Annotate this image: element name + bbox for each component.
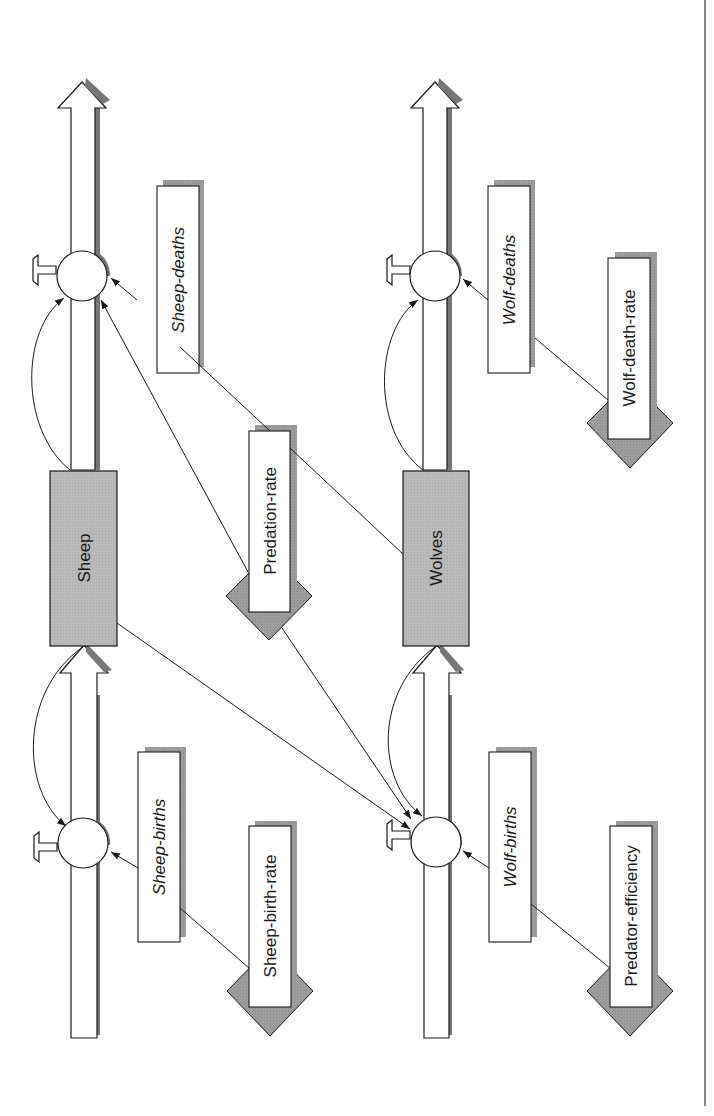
valve-wolf-deaths[interactable] [387,251,462,301]
valve-sheep-deaths[interactable] [33,251,110,301]
stock-flow-diagram: Sheep Sheep-births Sheep-deaths Sheep-bi… [0,0,714,1116]
flow-sheep-deaths[interactable]: Sheep-deaths [157,180,204,373]
flow-sheep-births[interactable]: Sheep-births [138,747,186,942]
link-wolves-to-deaths-valve [385,300,424,470]
stock-sheep[interactable]: Sheep [50,471,117,646]
param-predation-rate[interactable]: Predation-rate [226,425,312,640]
link-sheepbirthrate-sheepbirths [180,908,249,968]
link-predationrate-sheepdeaths [180,347,270,431]
flow-wolf-births[interactable]: Wolf-births [489,747,537,942]
link-sheepbirths-valve [111,852,138,868]
stock-wolves-label: Wolves [427,530,446,585]
valve-sheep-births[interactable] [34,818,110,868]
param-predation-rate-label: Predation-rate [261,467,280,575]
param-wolf-death-rate-label: Wolf-death-rate [620,290,639,407]
flow-wolf-deaths-label: Wolf-deaths [500,234,519,325]
link-sheepdeaths-valve [111,278,137,300]
flow-sheep-deaths-label: Sheep-deaths [169,227,188,333]
link-wolfdeaths-valve [463,279,488,300]
valve-wolf-births[interactable] [387,817,462,867]
link-sheep-to-deaths-valve [32,298,70,470]
link-wolfdeathrate-wolfdeaths [535,338,608,400]
param-wolf-death-rate[interactable]: Wolf-death-rate [587,252,673,468]
param-predator-efficiency-label: Predator-efficiency [622,845,641,987]
link-wolfbirths-valve [463,851,489,868]
stock-sheep-label: Sheep [75,533,94,582]
link-predationrate-wolfbirths-valve [282,628,411,819]
flow-wolf-deaths[interactable]: Wolf-deaths [488,180,535,373]
param-predator-efficiency[interactable]: Predator-efficiency [587,821,673,1036]
flow-wolf-births-label: Wolf-births [501,806,520,888]
param-sheep-birth-rate[interactable]: Sheep-birth-rate [227,821,313,1036]
link-predatoreff-wolfbirths [531,904,610,968]
flow-sheep-births-label: Sheep-births [150,798,169,895]
link-predationrate-wolves [290,448,403,554]
stock-wolves[interactable]: Wolves [403,471,469,646]
param-sheep-birth-rate-label: Sheep-birth-rate [261,855,280,978]
